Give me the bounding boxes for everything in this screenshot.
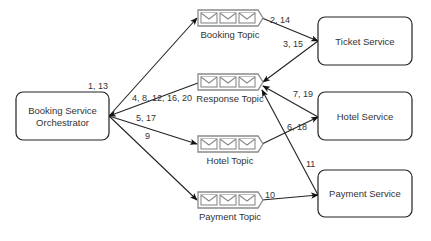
service-label: Payment Service (329, 188, 401, 199)
topic-label: Response Topic (196, 93, 264, 104)
payment-service-box: Payment Service (318, 170, 412, 217)
service-label: Hotel Service (337, 111, 394, 122)
booking-orchestration-diagram: Booking TopicResponse TopicHotel TopicPa… (0, 0, 431, 241)
edge-label: 1, 13 (88, 81, 108, 91)
orchestrator-service-box: Booking ServiceOrchestrator (16, 92, 109, 140)
edge-labels-layer: 1, 132, 143, 154, 8, 12, 16, 205, 176, 1… (88, 15, 315, 200)
arrow-e9 (109, 116, 197, 200)
topic-label: Hotel Topic (207, 155, 254, 166)
edge-label: 5, 17 (136, 113, 156, 123)
arrow-e11 (262, 90, 318, 195)
topic-label: Booking Topic (201, 29, 260, 40)
edge-label: 6, 18 (287, 122, 307, 132)
edge-label: 11 (306, 159, 315, 169)
response-topic: Response Topic (196, 74, 264, 104)
topic-label: Payment Topic (199, 211, 261, 222)
hotel-service-box: Hotel Service (318, 92, 412, 140)
service-label: Ticket Service (335, 36, 394, 47)
service-label: Orchestrator (36, 117, 89, 128)
edge-label: 9 (145, 131, 150, 141)
service-label: Booking Service (28, 105, 97, 116)
edge-label: 10 (265, 190, 275, 200)
edge-label: 3, 15 (283, 39, 303, 49)
booking-topic: Booking Topic (198, 10, 263, 40)
edge-label: 7, 19 (293, 89, 313, 99)
edge-label: 2, 14 (270, 15, 290, 25)
topics-layer: Booking TopicResponse TopicHotel TopicPa… (196, 10, 264, 222)
payment-topic: Payment Topic (198, 192, 263, 222)
ticket-service-box: Ticket Service (318, 17, 412, 65)
edge-label: 4, 8, 12, 16, 20 (132, 93, 192, 103)
hotel-topic: Hotel Topic (198, 136, 263, 166)
services-layer: Booking ServiceOrchestratorTicket Servic… (16, 17, 412, 217)
